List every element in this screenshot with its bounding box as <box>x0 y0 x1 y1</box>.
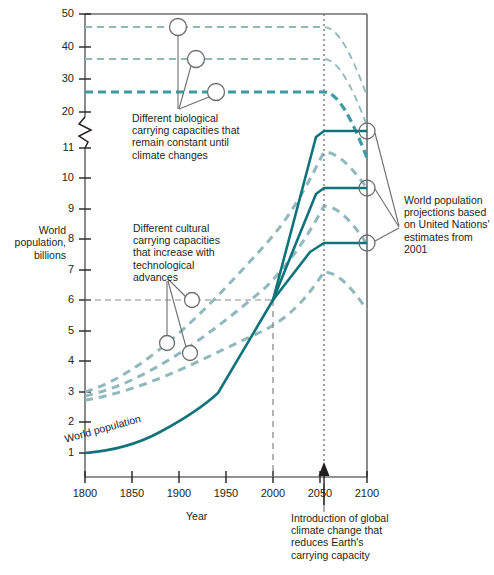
marker-biological-3 <box>208 84 225 101</box>
marker-projection-low <box>359 235 375 251</box>
marker-projection-high <box>359 123 375 139</box>
annotation-climate-change: Introduction of global climate change th… <box>291 512 411 561</box>
ytick-40: 40 <box>44 40 74 52</box>
ytick-10: 10 <box>44 171 74 183</box>
marker-cultural-1 <box>185 293 200 308</box>
y-axis-label: World population, billions <box>2 224 66 261</box>
xtick-2100: 2100 <box>342 487 392 499</box>
ytick-11: 11 <box>44 141 74 153</box>
ytick-30: 30 <box>44 72 74 84</box>
marker-biological-2 <box>188 51 205 68</box>
ytick-20: 20 <box>44 105 74 117</box>
marker-projection-medium <box>359 180 375 196</box>
xtick-1900: 1900 <box>154 487 204 499</box>
xtick-2000: 2000 <box>248 487 298 499</box>
marker-cultural-3 <box>183 346 198 361</box>
marker-biological-1 <box>170 19 187 36</box>
xtick-2050: 2050 <box>295 487 345 499</box>
figure-container: 50 40 30 20 11 10 9 8 7 6 5 4 3 2 1 1800… <box>0 0 494 575</box>
x-axis-label: Year <box>186 510 207 522</box>
ytick-6: 6 <box>44 293 74 305</box>
xtick-1950: 1950 <box>201 487 251 499</box>
capacity-markers <box>160 19 225 361</box>
leader-biological-c <box>179 97 209 109</box>
annotation-cultural-capacity: Different cultural carrying capacities t… <box>133 222 237 283</box>
ytick-2: 2 <box>44 415 74 427</box>
ytick-5: 5 <box>44 324 74 336</box>
xtick-1850: 1850 <box>107 487 157 499</box>
ytick-9: 9 <box>44 202 74 214</box>
annotation-biological-capacity: Different biological carrying capacities… <box>132 112 250 161</box>
ytick-3: 3 <box>44 385 74 397</box>
xtick-1800: 1800 <box>60 487 110 499</box>
leader-projection-c <box>375 228 399 241</box>
figure-caption <box>0 566 494 575</box>
annotation-un-projections: World population projections based on Un… <box>404 194 494 255</box>
ytick-4: 4 <box>44 354 74 366</box>
leader-biological-b <box>179 66 191 109</box>
axis-break-icon <box>79 117 91 148</box>
ytick-50: 50 <box>44 7 74 19</box>
ytick-1: 1 <box>44 446 74 458</box>
leader-projection-b <box>375 189 399 227</box>
leader-projection-a <box>375 133 399 226</box>
ytick-7: 7 <box>44 263 74 275</box>
marker-cultural-2 <box>160 336 175 351</box>
